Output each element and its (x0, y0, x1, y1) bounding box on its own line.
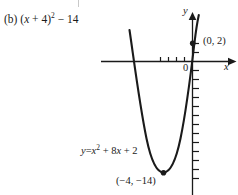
y-axis-label: y (183, 6, 188, 17)
graph-canvas (0, 0, 238, 195)
parabola-figure: (b) (x + 4)2 − 14 (0, 0, 238, 195)
y-axis-arrow-icon (189, 12, 197, 20)
vertex-label: (−4, −14) (116, 176, 156, 187)
equation-term-constant: + 2 (121, 145, 137, 156)
x-axis-group (101, 57, 237, 65)
origin-label: 0 (183, 63, 188, 74)
equation-label: y=x2 + 8x + 2 (81, 146, 138, 157)
parabola-curve (130, 15, 199, 173)
y-intercept-label: (0, 2) (203, 36, 226, 47)
x-axis-label: x (224, 62, 229, 73)
vertex-point-marker (161, 170, 167, 176)
y-intercept-point-marker (190, 40, 196, 46)
x-axis-arrow-icon (228, 58, 237, 66)
equation-term-linear: + 8 (100, 145, 116, 156)
